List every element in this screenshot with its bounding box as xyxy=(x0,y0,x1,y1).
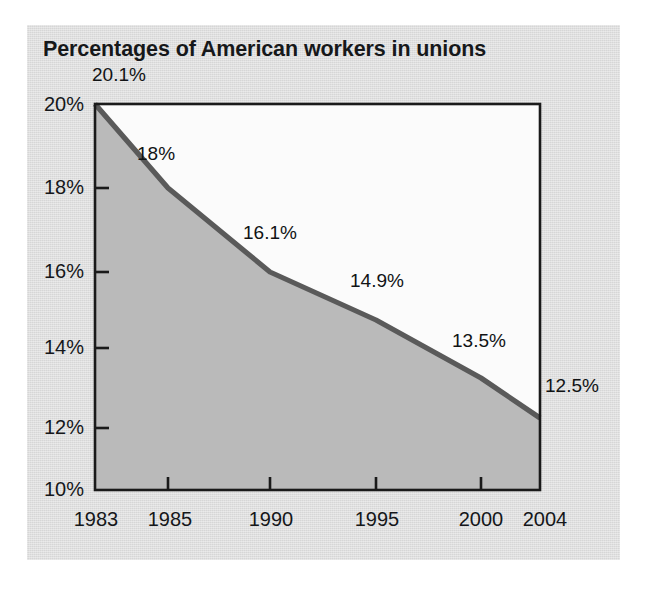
xtick-label-2004: 2004 xyxy=(505,508,585,531)
ytick-label-18: 18% xyxy=(22,176,84,199)
data-label-1995: 14.9% xyxy=(350,270,404,292)
ytick-label-12: 12% xyxy=(22,416,84,439)
chart-title: Percentages of American workers in union… xyxy=(43,37,486,62)
chart-card: Percentages of American workers in union… xyxy=(27,25,620,560)
xtick-label-1995: 1995 xyxy=(337,508,417,531)
data-label-2004: 12.5% xyxy=(545,375,599,397)
ytick-label-20: 20% xyxy=(22,93,84,116)
data-label-1985: 18% xyxy=(137,143,175,165)
chart-figure: Percentages of American workers in union… xyxy=(0,0,645,591)
data-label-2000: 13.5% xyxy=(452,330,506,352)
ytick-label-16: 16% xyxy=(22,260,84,283)
data-label-1983: 20.1% xyxy=(92,64,146,86)
ytick-label-14: 14% xyxy=(22,336,84,359)
xtick-label-1990: 1990 xyxy=(231,508,311,531)
xtick-label-1985: 1985 xyxy=(130,508,210,531)
ytick-label-10: 10% xyxy=(22,478,84,501)
data-label-1990: 16.1% xyxy=(243,222,297,244)
xtick-label-1983: 1983 xyxy=(56,508,136,531)
